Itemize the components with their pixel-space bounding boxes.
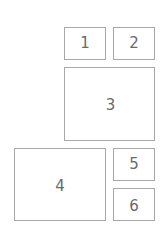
box-2: 2 bbox=[113, 27, 155, 60]
box-5-label: 5 bbox=[129, 157, 139, 172]
box-5: 5 bbox=[113, 148, 155, 181]
box-3: 3 bbox=[64, 67, 155, 141]
box-3-label: 3 bbox=[106, 98, 116, 113]
box-6: 6 bbox=[113, 188, 155, 221]
box-4-label: 4 bbox=[55, 179, 65, 194]
box-1-label: 1 bbox=[80, 36, 90, 51]
box-1: 1 bbox=[64, 27, 106, 60]
box-6-label: 6 bbox=[129, 199, 139, 214]
box-4: 4 bbox=[14, 148, 106, 221]
box-2-label: 2 bbox=[129, 36, 139, 51]
